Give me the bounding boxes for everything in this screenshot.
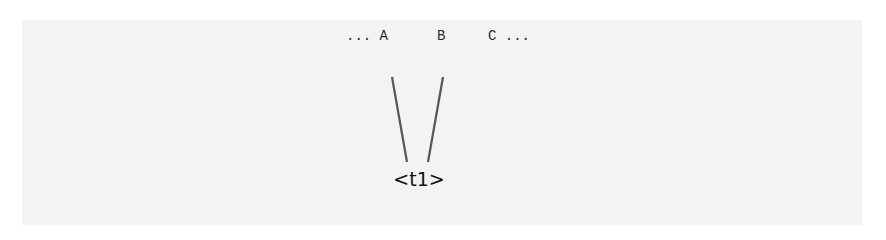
edge-a-to-t1	[392, 77, 407, 162]
edge-b-to-t1	[428, 77, 443, 162]
edges	[0, 0, 886, 240]
node-t1-label: <t1>	[392, 168, 446, 190]
